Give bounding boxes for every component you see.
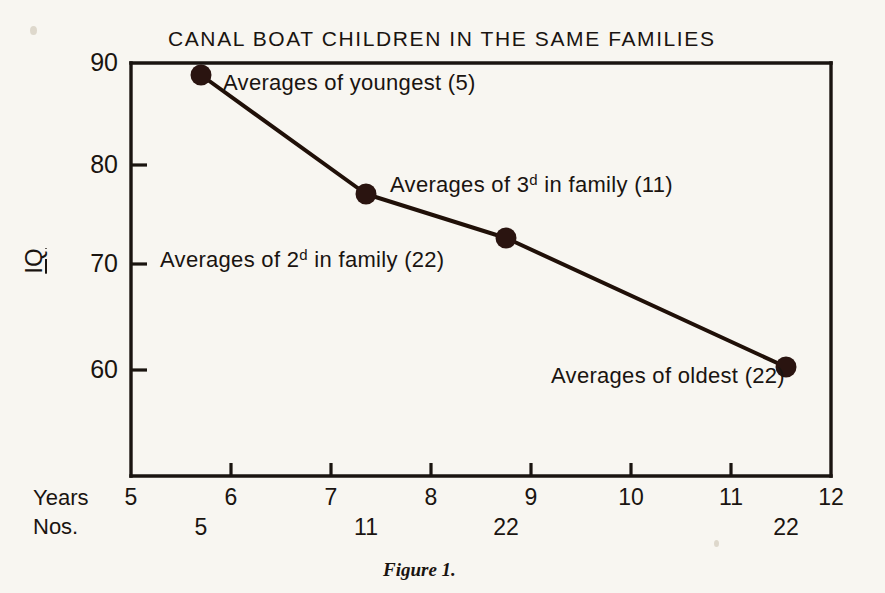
y-axis-ticks bbox=[131, 165, 147, 370]
nos-value-third-in-family: 11 bbox=[341, 516, 391, 539]
chart-title: CANAL BOAT CHILDREN IN THE SAME FAMILIES bbox=[168, 28, 716, 49]
annotation-youngest: Averages of youngest (5) bbox=[223, 72, 476, 94]
annotation-oldest-text: Averages of oldest (22) bbox=[551, 363, 785, 388]
annotation-third-suffix: in family (11) bbox=[538, 172, 673, 197]
x-axis-ticks bbox=[231, 463, 731, 476]
y-axis-title: IQ bbox=[22, 241, 46, 281]
x-tick-label-12: 12 bbox=[811, 486, 851, 509]
x-tick-label-9: 9 bbox=[511, 486, 551, 509]
y-tick-label-60: 60 bbox=[58, 357, 118, 382]
data-line-series-1 bbox=[201, 75, 786, 367]
nos-value-oldest: 22 bbox=[761, 516, 811, 539]
annotation-third-in-family: Averages of 3d in family (11) bbox=[390, 174, 673, 196]
annotation-second-prefix: Averages of 2 bbox=[160, 247, 299, 272]
nos-row-label: Nos. bbox=[33, 516, 78, 538]
years-row-label: Years bbox=[33, 487, 88, 509]
x-tick-label-10: 10 bbox=[611, 486, 651, 509]
data-point-third-in-family bbox=[356, 184, 377, 205]
scan-speck bbox=[30, 26, 37, 35]
annotation-second-in-family: Averages of 2d in family (22) bbox=[160, 249, 444, 271]
y-tick-label-80: 80 bbox=[58, 152, 118, 177]
x-tick-label-11: 11 bbox=[711, 486, 751, 509]
annotation-youngest-text: Averages of youngest (5) bbox=[223, 70, 476, 95]
x-tick-label-5: 5 bbox=[111, 486, 151, 509]
annotation-third-superscript: d bbox=[529, 171, 538, 188]
annotation-oldest: Averages of oldest (22) bbox=[551, 365, 785, 387]
figure-container: CANAL BOAT CHILDREN IN THE SAME FAMILIES… bbox=[0, 0, 885, 593]
x-tick-label-6: 6 bbox=[211, 486, 251, 509]
figure-caption: Figure 1. bbox=[383, 560, 456, 579]
y-tick-label-90: 90 bbox=[58, 50, 118, 75]
data-point-youngest bbox=[191, 65, 212, 86]
nos-value-second-in-family: 22 bbox=[481, 516, 531, 539]
data-point-second-in-family bbox=[496, 228, 517, 249]
y-tick-label-70: 70 bbox=[58, 251, 118, 276]
annotation-third-prefix: Averages of 3 bbox=[390, 172, 529, 197]
x-tick-label-8: 8 bbox=[411, 486, 451, 509]
annotation-second-superscript: d bbox=[299, 246, 308, 263]
x-tick-label-7: 7 bbox=[311, 486, 351, 509]
annotation-second-suffix: in family (22) bbox=[308, 247, 445, 272]
scan-speck bbox=[714, 540, 719, 547]
nos-value-youngest: 5 bbox=[176, 516, 226, 539]
